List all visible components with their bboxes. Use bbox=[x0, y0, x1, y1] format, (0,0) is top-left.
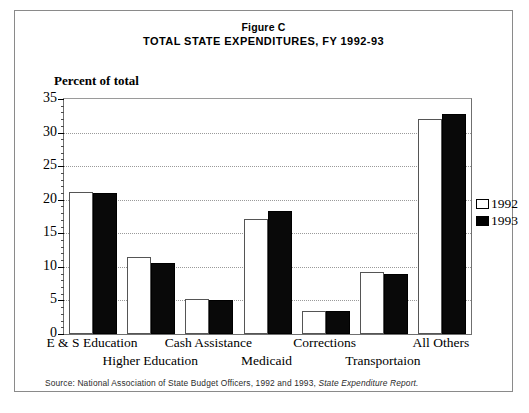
y-tick-major bbox=[58, 99, 64, 100]
x-axis-label: Cash Assistance bbox=[165, 335, 252, 351]
y-tick-minor bbox=[61, 119, 64, 120]
x-axis-label: Higher Education bbox=[102, 353, 198, 369]
y-tick-label: 35 bbox=[31, 90, 57, 106]
y-tick-minor bbox=[61, 287, 64, 288]
gridline bbox=[64, 200, 471, 201]
figure-card: Figure C TOTAL STATE EXPENDITURES, FY 19… bbox=[14, 10, 513, 392]
y-tick-major bbox=[58, 233, 64, 234]
legend-label: 1992 bbox=[491, 196, 518, 212]
bar bbox=[360, 272, 384, 334]
y-tick-major bbox=[58, 300, 64, 301]
y-tick-minor bbox=[61, 193, 64, 194]
y-tick-minor bbox=[61, 327, 64, 328]
y-axis-caption: Percent of total bbox=[54, 73, 139, 89]
y-tick-minor bbox=[61, 186, 64, 187]
bar bbox=[384, 274, 408, 334]
y-tick-label: 30 bbox=[31, 124, 57, 140]
bar bbox=[151, 263, 175, 334]
gridline bbox=[64, 133, 471, 134]
source-note: Source: National Association of State Bu… bbox=[45, 378, 419, 388]
y-tick-minor bbox=[61, 260, 64, 261]
y-tick-major bbox=[58, 166, 64, 167]
y-tick-minor bbox=[61, 139, 64, 140]
bar bbox=[244, 219, 268, 334]
y-tick-minor bbox=[61, 280, 64, 281]
x-axis-label: Transportaion bbox=[345, 353, 420, 369]
bar bbox=[69, 192, 93, 334]
figure-label: Figure C bbox=[15, 20, 512, 34]
bar bbox=[93, 193, 117, 334]
gridline bbox=[64, 166, 471, 167]
y-tick-major bbox=[58, 267, 64, 268]
y-tick-label: 15 bbox=[31, 224, 57, 240]
bar bbox=[127, 257, 151, 334]
y-tick-major bbox=[58, 133, 64, 134]
y-tick-label: 10 bbox=[31, 258, 57, 274]
y-tick-minor bbox=[61, 227, 64, 228]
y-tick-minor bbox=[61, 213, 64, 214]
legend-item: 1993 bbox=[476, 212, 518, 229]
y-tick-minor bbox=[61, 146, 64, 147]
y-tick-minor bbox=[61, 173, 64, 174]
x-axis-label: Medicaid bbox=[241, 353, 292, 369]
bar bbox=[302, 311, 326, 335]
y-tick-label: 5 bbox=[31, 291, 57, 307]
source-text: Source: National Association of State Bu… bbox=[45, 378, 318, 388]
y-tick-minor bbox=[61, 321, 64, 322]
x-axis-category-labels: E & S EducationHigher EducationCash Assi… bbox=[15, 334, 512, 378]
y-tick-minor bbox=[61, 112, 64, 113]
y-tick-minor bbox=[61, 126, 64, 127]
source-report-title: State Expenditure Report. bbox=[318, 378, 418, 388]
y-tick-major bbox=[58, 200, 64, 201]
bar bbox=[418, 119, 442, 334]
y-tick-minor bbox=[61, 274, 64, 275]
y-axis-tick-labels: 05101520253035 bbox=[27, 98, 57, 333]
y-tick-minor bbox=[61, 314, 64, 315]
y-tick-label: 20 bbox=[31, 191, 57, 207]
bar bbox=[268, 211, 292, 334]
x-axis-label: All Others bbox=[413, 335, 470, 351]
legend-swatch-icon bbox=[476, 216, 489, 226]
y-tick-minor bbox=[61, 240, 64, 241]
y-tick-minor bbox=[61, 206, 64, 207]
y-tick-minor bbox=[61, 159, 64, 160]
y-tick-minor bbox=[61, 253, 64, 254]
bar bbox=[185, 299, 209, 334]
figure-title: TOTAL STATE EXPENDITURES, FY 1992-93 bbox=[15, 34, 512, 49]
y-tick-minor bbox=[61, 307, 64, 308]
y-tick-minor bbox=[61, 153, 64, 154]
y-tick-label: 25 bbox=[31, 157, 57, 173]
bar bbox=[442, 114, 466, 334]
title-block: Figure C TOTAL STATE EXPENDITURES, FY 19… bbox=[15, 20, 512, 49]
plot-area bbox=[63, 98, 472, 335]
bar bbox=[326, 311, 350, 334]
legend-label: 1993 bbox=[491, 213, 518, 229]
y-tick-minor bbox=[61, 247, 64, 248]
y-tick-minor bbox=[61, 220, 64, 221]
y-tick-minor bbox=[61, 294, 64, 295]
y-tick-minor bbox=[61, 106, 64, 107]
x-axis-label: Corrections bbox=[293, 335, 356, 351]
y-tick-minor bbox=[61, 180, 64, 181]
legend-swatch-icon bbox=[476, 199, 489, 209]
legend-item: 1992 bbox=[476, 195, 518, 212]
bar bbox=[209, 300, 233, 334]
x-axis-label: E & S Education bbox=[47, 335, 138, 351]
legend: 19921993 bbox=[476, 195, 518, 229]
